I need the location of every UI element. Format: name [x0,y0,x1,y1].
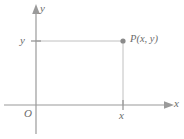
y-coordinate-tick-label: y [20,35,25,46]
x-axis-label: x [174,98,179,109]
point-p-label: P(x, y) [130,34,158,45]
y-axis-arrow-icon [32,4,40,14]
origin-label: O [24,108,32,119]
x-axis-arrow-icon [164,101,174,108]
y-axis-label: y [40,3,45,14]
x-coordinate-tick-label: x [119,110,124,121]
coordinate-plane-figure: y x O y x P(x, y) [0,0,184,139]
point-p-dot [120,38,125,43]
